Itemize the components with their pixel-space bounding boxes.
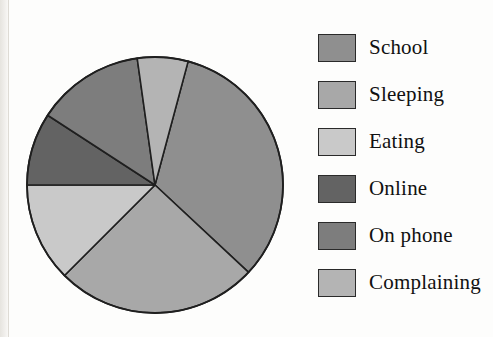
legend-item-complaining[interactable]: Complaining [318,259,493,306]
legend-item-label: Online [369,178,427,199]
legend-swatch-icon [318,269,356,297]
legend-item-label: School [369,37,429,58]
pie-chart-area [0,0,310,337]
chart-legend: SchoolSleepingEatingOnlineOn phoneCompla… [318,24,493,306]
legend-swatch-icon [318,34,356,62]
legend-swatch-icon [318,81,356,109]
legend-item-on-phone[interactable]: On phone [318,212,493,259]
legend-item-sleeping[interactable]: Sleeping [318,71,493,118]
legend-item-eating[interactable]: Eating [318,118,493,165]
legend-item-school[interactable]: School [318,24,493,71]
page-background: SchoolSleepingEatingOnlineOn phoneCompla… [0,0,493,337]
legend-item-label: Eating [369,131,425,152]
legend-item-label: On phone [369,225,453,246]
legend-item-label: Complaining [369,272,481,293]
legend-item-online[interactable]: Online [318,165,493,212]
legend-swatch-icon [318,175,356,203]
pie-slice-group [27,57,283,313]
legend-swatch-icon [318,222,356,250]
legend-swatch-icon [318,128,356,156]
legend-item-label: Sleeping [369,84,444,105]
pie-chart [0,0,310,337]
